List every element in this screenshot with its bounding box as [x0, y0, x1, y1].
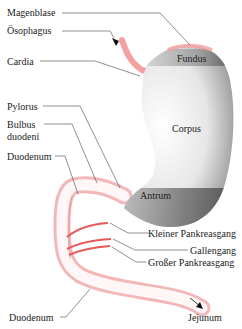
- label-cardia: Cardia: [7, 56, 34, 67]
- label-duodenum-top: Duodenum: [7, 151, 51, 162]
- leader-oesophagus: [62, 31, 114, 38]
- leader-gallengang: [113, 239, 188, 250]
- oesophagus-arrow-icon: [112, 38, 119, 46]
- label-bulbus-line1: Bulbus: [7, 119, 35, 130]
- stomach-diagram: [0, 0, 242, 329]
- label-bulbus-line2: duodeni: [7, 131, 39, 142]
- grosser-pankreasgang-duct: [69, 246, 110, 255]
- label-grosser-pankreasgang: Großer Pankreasgang: [148, 257, 234, 268]
- label-oesophagus: Ösophagus: [7, 25, 51, 36]
- label-gallengang: Gallengang: [190, 245, 236, 256]
- label-jejunum: Jejunum: [188, 312, 222, 323]
- leader-grosser: [112, 247, 146, 262]
- label-kleiner-pankreasgang: Kleiner Pankreasgang: [148, 228, 236, 239]
- kleiner-pankreasgang-duct: [67, 223, 108, 237]
- antrum-band: [120, 188, 240, 233]
- label-pylorus: Pylorus: [7, 101, 38, 112]
- leader-magenblase: [62, 13, 190, 45]
- leader-cardia: [40, 61, 140, 76]
- label-magenblase: Magenblase: [7, 7, 55, 18]
- leader-bulbus: [44, 124, 97, 183]
- label-duodenum-bottom: Duodenum: [9, 312, 53, 323]
- leader-kleiner: [110, 223, 150, 233]
- label-antrum: Antrum: [140, 190, 171, 201]
- label-corpus: Corpus: [172, 123, 201, 134]
- label-fundus: Fundus: [177, 53, 206, 64]
- leader-duodenum-bottom: [60, 289, 90, 317]
